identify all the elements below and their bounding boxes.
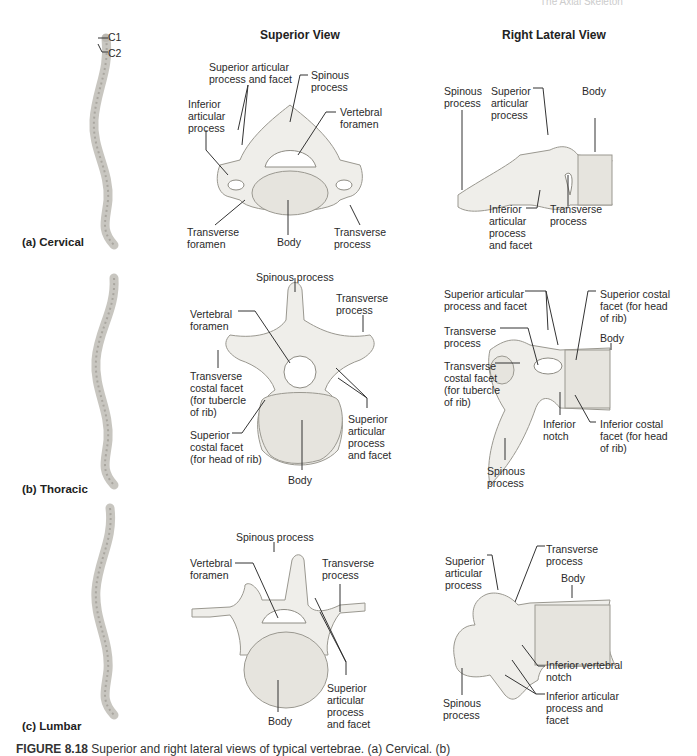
lumbar-lat-leader-lines [400, 490, 697, 720]
spine-illustration-lumbar [70, 500, 130, 720]
lumbar-sup-leader-lines [170, 490, 400, 720]
c2-marker: C2 [108, 47, 121, 59]
figure-caption: FIGURE 8.18 Superior and right lateral v… [16, 742, 450, 756]
thoracic-sup-leader-lines [170, 260, 400, 490]
thoracic-lat-leader-lines [400, 270, 697, 500]
row-label-cervical: (a) Cervical [22, 236, 84, 248]
caption-text: Superior and right lateral views of typi… [88, 742, 450, 756]
figure-number: FIGURE 8.18 [16, 742, 88, 756]
spine-illustration-cervical [70, 30, 130, 250]
c1-marker: C1 [108, 31, 121, 43]
spine-illustration-thoracic [70, 270, 130, 490]
cervical-sup-leader-lines [170, 30, 400, 260]
row-label-thoracic: (b) Thoracic [22, 483, 88, 495]
c-marker-leads [98, 36, 110, 56]
cervical-lat-leader-lines [400, 30, 697, 260]
row-label-lumbar: (c) Lumbar [22, 720, 81, 732]
running-head: The Axial Skeleton [540, 0, 623, 7]
